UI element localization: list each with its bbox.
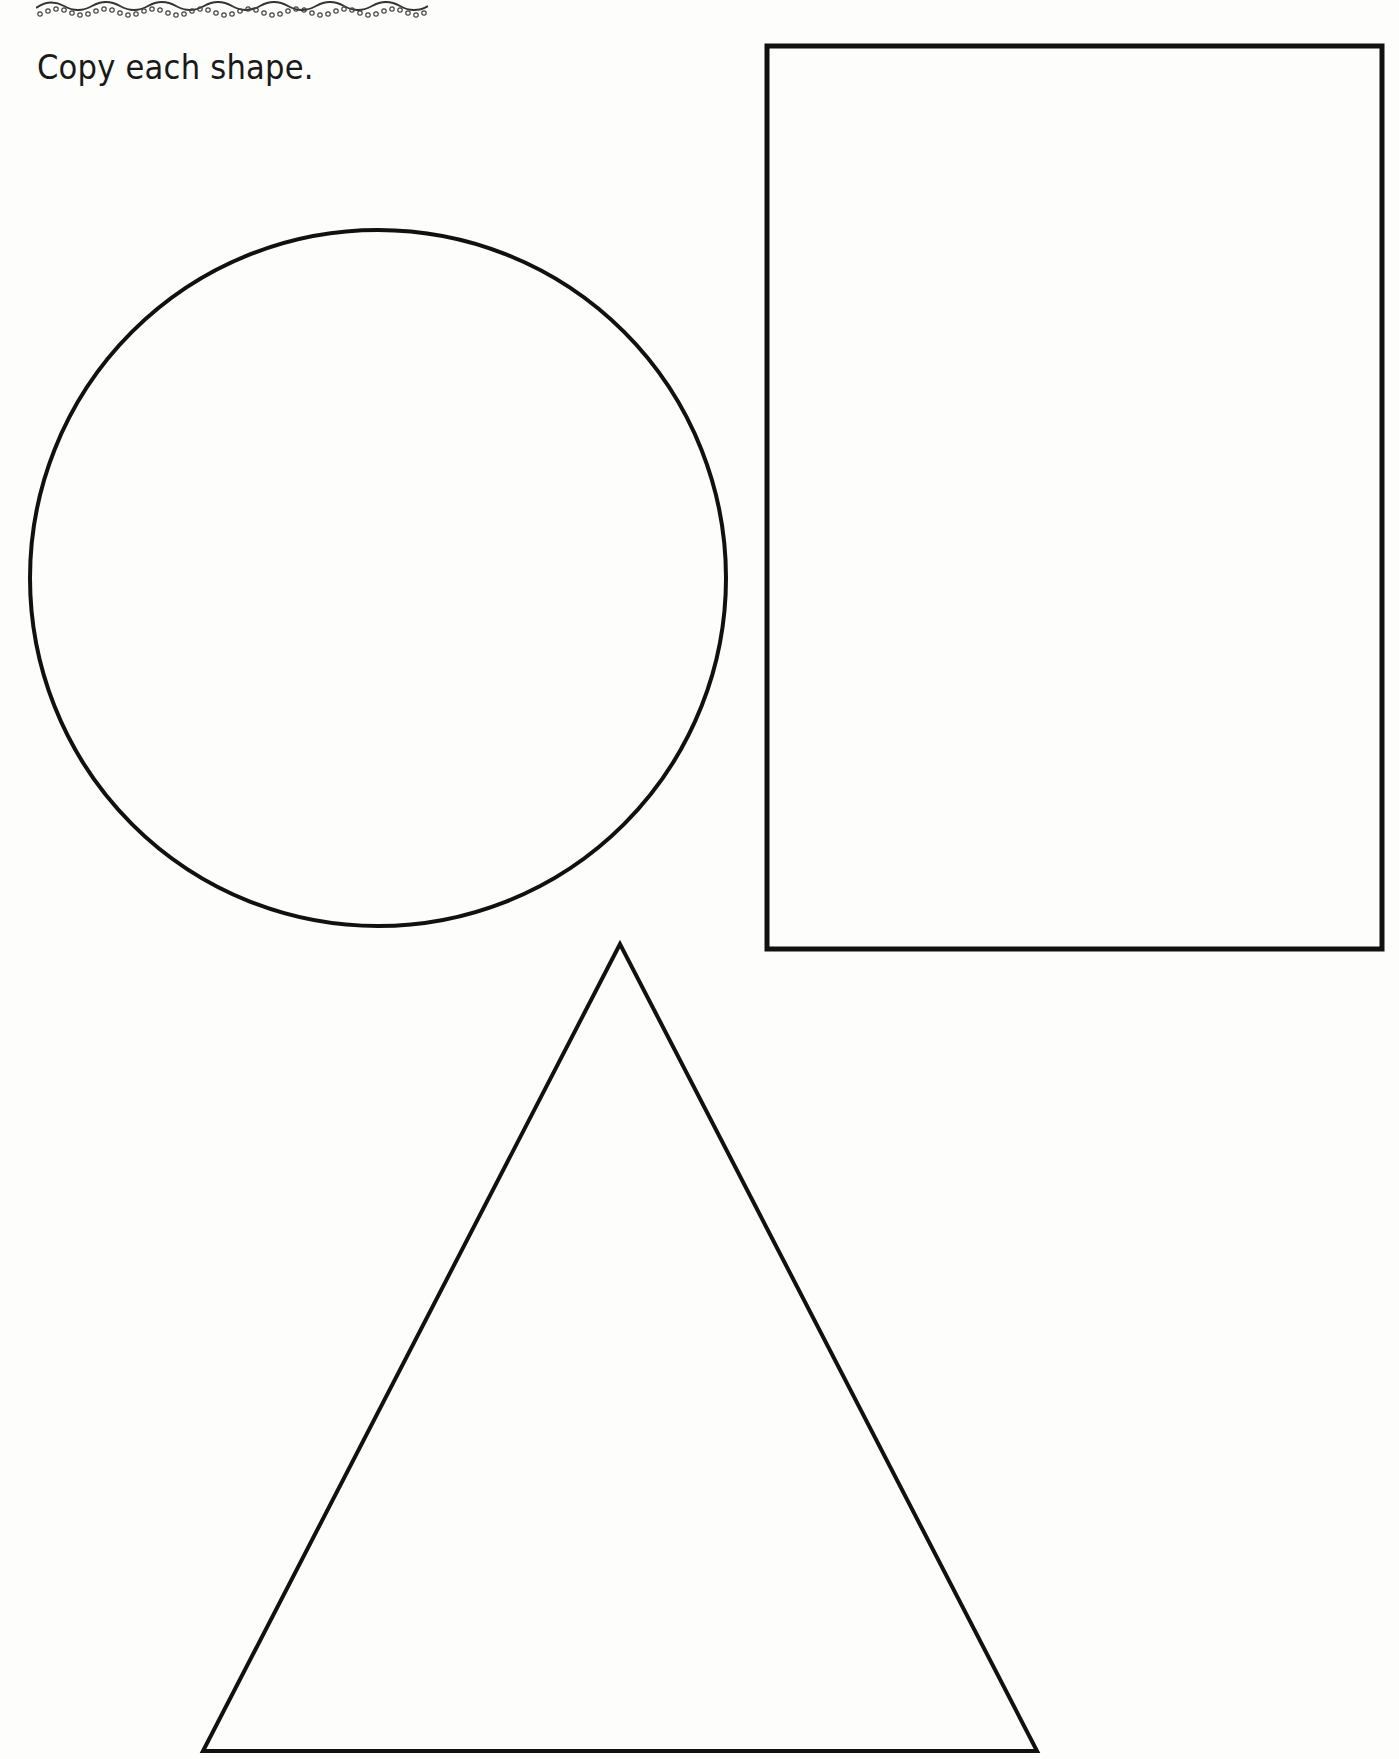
rectangle-shape [767, 46, 1382, 949]
triangle-shape [203, 944, 1037, 1751]
shapes-canvas [0, 0, 1399, 1759]
circle-shape [30, 230, 726, 926]
